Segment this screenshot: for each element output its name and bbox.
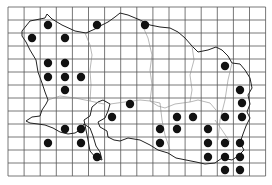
record-dot xyxy=(61,59,69,67)
record-dot xyxy=(126,100,134,108)
record-dot xyxy=(93,153,101,161)
record-dot xyxy=(77,139,85,147)
distribution-map xyxy=(0,0,272,185)
grid-lines xyxy=(8,7,266,176)
record-dot xyxy=(221,113,229,121)
record-dot xyxy=(189,113,197,121)
record-dot xyxy=(77,73,85,81)
record-dot xyxy=(204,125,212,133)
record-dot xyxy=(108,113,116,121)
record-dot xyxy=(204,139,212,147)
record-dot xyxy=(236,139,244,147)
record-dot xyxy=(204,153,212,161)
record-dot xyxy=(44,59,52,67)
record-dot xyxy=(61,73,69,81)
record-dot xyxy=(44,139,52,147)
record-dot xyxy=(61,86,69,94)
record-dot xyxy=(61,34,69,42)
record-dot xyxy=(236,86,244,94)
record-dot xyxy=(221,62,229,70)
record-dot xyxy=(221,166,229,174)
record-dot xyxy=(77,125,85,133)
record-dot xyxy=(44,21,52,29)
record-dot xyxy=(236,153,244,161)
record-dot xyxy=(238,113,246,121)
record-dot xyxy=(173,113,181,121)
record-dot xyxy=(173,125,181,133)
record-dot xyxy=(93,21,101,29)
record-dot xyxy=(221,139,229,147)
record-dot xyxy=(44,73,52,81)
record-dot xyxy=(28,34,36,42)
record-dot xyxy=(221,153,229,161)
record-dot xyxy=(141,21,149,29)
record-dot xyxy=(238,99,246,107)
record-dot xyxy=(156,139,164,147)
record-dot xyxy=(156,125,164,133)
record-dot xyxy=(61,125,69,133)
record-dot xyxy=(236,166,244,174)
